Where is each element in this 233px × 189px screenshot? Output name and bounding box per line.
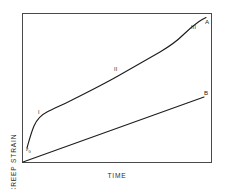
stage-3-label: III: [191, 25, 196, 30]
curve-b-label: B: [204, 90, 208, 96]
x-axis-title: TIME: [22, 172, 212, 179]
curve-a-label: A: [205, 19, 209, 25]
initial-strain-subscript: 0: [28, 149, 30, 154]
curve-b-path: [23, 97, 204, 162]
creep-curve-figure: CREEP STRAIN TIME I II III A B ε0: [0, 0, 233, 189]
stage-2-label: II: [114, 67, 118, 72]
stage-1-label: I: [38, 110, 40, 115]
curves-layer: [0, 0, 233, 189]
y-axis-title: CREEP STRAIN: [7, 88, 20, 189]
initial-strain-label: ε0: [26, 146, 31, 155]
